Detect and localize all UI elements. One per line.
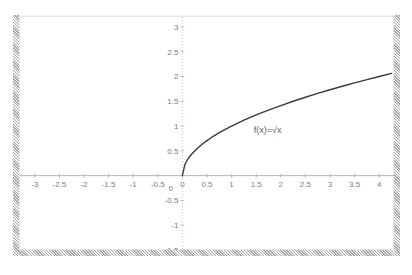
frame-bottom-edge — [13, 250, 400, 256]
function-annotation-label: f(x)=√x — [254, 125, 282, 135]
graph-svg — [20, 17, 394, 250]
y-tick-label: 3 — [160, 22, 178, 31]
frame-right-edge — [394, 15, 400, 256]
x-tick-label: -2 — [80, 180, 87, 189]
y-tick-label: -1.5 — [160, 246, 178, 251]
y-tick-label: 1.5 — [160, 97, 178, 106]
y-tick-label: -0.5 — [160, 196, 178, 205]
x-tick-label: 1.5 — [251, 180, 262, 189]
x-tick-label: 2.5 — [300, 180, 311, 189]
y-tick-label: 1 — [160, 122, 178, 131]
y-tick-label: 2.5 — [160, 47, 178, 56]
x-tick-label: -1 — [130, 180, 137, 189]
y-tick-label: 0.5 — [160, 146, 178, 155]
x-tick-label: -1.5 — [102, 180, 116, 189]
x-tick-label: 2 — [279, 180, 283, 189]
y-tick-label: 2 — [160, 72, 178, 81]
function-curve — [182, 73, 391, 175]
x-tick-label: -3 — [31, 180, 38, 189]
x-tick-label: 3.5 — [349, 180, 360, 189]
figure-frame: -3-2.5-2-1.5-1-0.500.511.522.533.54 32.5… — [13, 15, 400, 256]
x-tick-label: -0.5 — [151, 180, 165, 189]
y-tick-label: 0 — [168, 184, 186, 193]
y-tick-label: -1 — [160, 221, 178, 230]
x-tick-label: 0.5 — [201, 180, 212, 189]
x-tick-label: 3 — [328, 180, 332, 189]
x-tick-label: 4 — [377, 180, 381, 189]
plot-canvas: -3-2.5-2-1.5-1-0.500.511.522.533.54 32.5… — [20, 17, 394, 250]
y-axis-tick-marks — [180, 27, 184, 250]
slide-title: The radical function. — [33, 0, 211, 5]
x-tick-label: 1 — [229, 180, 233, 189]
x-tick-label: -2.5 — [52, 180, 66, 189]
